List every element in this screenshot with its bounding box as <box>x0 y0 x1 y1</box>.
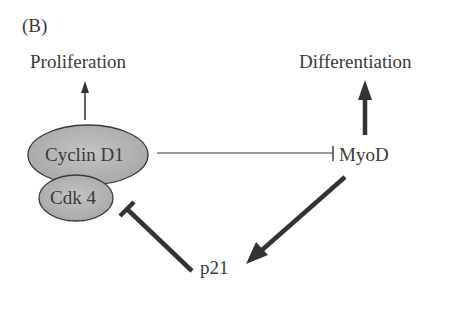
proliferation-label: Proliferation <box>30 52 126 71</box>
myod-p21-arrow <box>246 177 345 264</box>
proliferation-arrow <box>81 81 89 120</box>
p21-label: p21 <box>200 258 229 277</box>
p21-cdk4-inhibition <box>120 202 192 271</box>
cyclin-myod-inhibition <box>157 146 333 161</box>
differentiation-label: Differentiation <box>299 52 412 71</box>
differentiation-arrow <box>358 80 372 135</box>
myod-label: MyoD <box>339 145 389 164</box>
cdk4-label: Cdk 4 <box>50 188 96 207</box>
panel-label: (B) <box>22 16 47 35</box>
cyclin-d1-label: Cyclin D1 <box>45 145 124 164</box>
